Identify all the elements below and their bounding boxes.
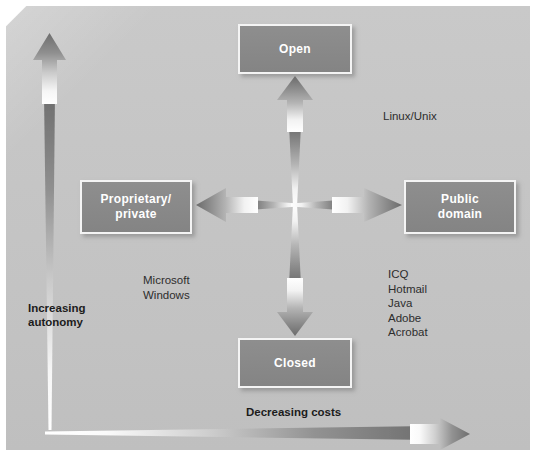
annotation-public-domain-examples: ICQ Hotmail Java Adobe Acrobat — [388, 267, 428, 340]
annotation-microsoft-windows: Microsoft Windows — [143, 273, 190, 302]
x-axis-arrow — [45, 418, 470, 450]
y-axis-arrow — [33, 33, 66, 430]
figure-root: Open Proprietary/ private Public domain … — [0, 0, 536, 472]
cross-arrow-right — [291, 188, 402, 222]
y-axis-label: Increasing autonomy — [28, 301, 86, 329]
x-axis-label: Decreasing costs — [246, 405, 341, 419]
node-open[interactable]: Open — [238, 24, 352, 74]
node-public-domain[interactable]: Public domain — [404, 180, 516, 234]
cross-arrow-down — [277, 203, 313, 336]
node-proprietary-private-label: Proprietary/ private — [101, 192, 172, 222]
cross-arrow-up — [277, 76, 313, 207]
cross-arrow-left — [196, 188, 299, 222]
node-closed-label: Closed — [274, 356, 316, 371]
node-proprietary-private[interactable]: Proprietary/ private — [80, 180, 192, 234]
node-open-label: Open — [279, 42, 311, 57]
node-closed[interactable]: Closed — [238, 338, 352, 388]
annotation-linux-unix: Linux/Unix — [383, 109, 437, 124]
node-public-domain-label: Public domain — [438, 192, 482, 222]
